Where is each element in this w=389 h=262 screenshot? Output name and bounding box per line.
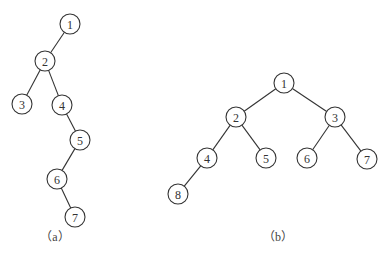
tree-node-4: 4 [52, 95, 72, 115]
edge-5-6 [62, 149, 75, 171]
edge-1-2 [244, 89, 276, 111]
edge-1-2 [51, 32, 65, 52]
tree-node-2: 2 [226, 107, 246, 127]
tree-node-2: 2 [35, 51, 55, 71]
tree-b: 12345678（b） [168, 73, 377, 244]
tree-node-5: 5 [256, 148, 276, 168]
node-label: 2 [42, 55, 48, 69]
edge-2-3 [27, 70, 41, 95]
binary-trees-diagram: 1234567（a） 12345678（b） [0, 0, 389, 262]
node-label: 8 [175, 188, 181, 202]
tree-a: 1234567（a） [12, 14, 90, 244]
edge-6-7 [61, 188, 70, 208]
tree-node-5: 5 [70, 130, 90, 150]
node-label: 6 [304, 152, 310, 166]
edge-3-6 [313, 125, 330, 149]
node-label: 4 [204, 152, 210, 166]
node-label: 5 [263, 152, 269, 166]
edge-4-5 [67, 114, 76, 131]
caption-b: （b） [263, 230, 293, 244]
caption-a: （a） [40, 230, 69, 244]
tree-node-1: 1 [60, 14, 80, 34]
tree-node-1: 1 [274, 73, 294, 93]
node-label: 1 [281, 77, 287, 91]
tree-node-6: 6 [47, 169, 67, 189]
tree-node-7: 7 [357, 149, 377, 169]
tree-node-7: 7 [65, 207, 85, 227]
tree-node-3: 3 [325, 107, 345, 127]
tree-node-3: 3 [12, 94, 32, 114]
node-label: 3 [19, 98, 25, 112]
node-label: 4 [59, 99, 65, 113]
tree-node-8: 8 [168, 184, 188, 204]
edge-2-5 [242, 125, 260, 150]
node-label: 3 [332, 111, 338, 125]
edge-3-7 [341, 125, 361, 151]
node-label: 7 [364, 153, 370, 167]
edge-4-8 [184, 166, 200, 186]
tree-node-4: 4 [197, 148, 217, 168]
node-label: 6 [54, 173, 60, 187]
node-label: 5 [77, 134, 83, 148]
tree-node-6: 6 [297, 148, 317, 168]
node-label: 2 [233, 111, 239, 125]
node-label: 1 [67, 18, 73, 32]
edge-1-3 [292, 89, 326, 112]
node-label: 7 [72, 211, 78, 225]
edge-2-4 [213, 125, 230, 150]
edge-2-4 [49, 70, 59, 95]
